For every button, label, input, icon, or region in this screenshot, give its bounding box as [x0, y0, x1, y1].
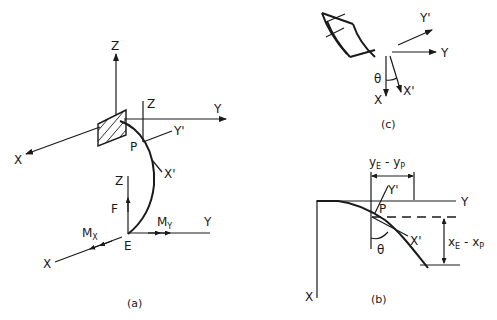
- beam-deflection-diagram: Z Y X Z Y' P: [0, 0, 497, 320]
- deflected-beam: [120, 121, 154, 234]
- label-y-c: Y: [440, 46, 449, 60]
- clamped-support-plate: [82, 93, 136, 164]
- label-z-p: Z: [147, 97, 155, 111]
- label-mx: MX: [82, 226, 98, 242]
- label-theta-b: θ: [377, 243, 384, 257]
- label-f: F: [111, 202, 118, 216]
- panel-c: Y' Y X X' θ (c): [322, 11, 449, 131]
- label-e: E: [124, 239, 132, 253]
- label-y-prime-c: Y': [419, 11, 431, 25]
- panel-a: Z Y X Z Y' P: [14, 39, 226, 310]
- label-x-top: X: [14, 153, 22, 167]
- label-z-top: Z: [111, 39, 119, 53]
- label-x-prime-b: X': [410, 234, 422, 248]
- label-y-prime-b: Y': [387, 183, 399, 197]
- label-p-a: P: [130, 140, 137, 154]
- label-x-c: X: [374, 93, 382, 107]
- theta-arc-c: [386, 78, 397, 80]
- label-x-e: X: [43, 257, 51, 271]
- caption-b: (b): [371, 293, 387, 306]
- label-y-prime-a: Y': [173, 124, 185, 138]
- x-prime-axis-c: [390, 56, 401, 92]
- y-prime-axis-c: [398, 30, 432, 45]
- caption-a: (a): [127, 297, 142, 310]
- label-z-e: Z: [115, 174, 123, 188]
- label-dim-y: yE - yP: [369, 155, 405, 171]
- y-prime-axis-a: [143, 131, 172, 142]
- label-theta-c: θ: [374, 72, 381, 86]
- x-prime-tangent-b: [372, 217, 408, 236]
- label-dim-x: xE - xP: [448, 235, 484, 251]
- label-x-b: X: [305, 290, 313, 304]
- label-my: MY: [157, 215, 172, 231]
- label-x-prime-c: X': [403, 84, 415, 98]
- label-y-e: Y: [203, 215, 212, 229]
- panel-b: Y X yE - yP Y' P X' θ xE - xP (b): [305, 155, 484, 306]
- label-y-b: Y: [460, 195, 469, 209]
- moment-mx-arrow-2: [90, 245, 102, 250]
- x-axis-top: [26, 127, 100, 154]
- theta-arc-b: [371, 232, 388, 239]
- caption-c: (c): [381, 118, 396, 131]
- x-axis-at-e: [55, 237, 122, 262]
- label-x-prime-a: X': [164, 167, 176, 181]
- label-p-b: P: [379, 202, 386, 216]
- element-right-edge: [327, 21, 350, 57]
- label-y-top: Y: [213, 102, 222, 116]
